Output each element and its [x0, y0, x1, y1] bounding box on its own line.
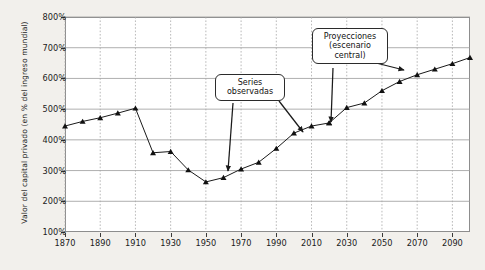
- x-tick: [347, 233, 348, 237]
- x-tick: [276, 233, 277, 237]
- y-tick-label: 600%: [43, 73, 66, 83]
- x-tick: [206, 233, 207, 237]
- x-tick-label: 2050: [372, 238, 393, 248]
- y-tick-label: 200%: [43, 196, 66, 206]
- x-tick-label: 2010: [301, 238, 322, 248]
- x-tick-label: 2090: [442, 238, 463, 248]
- x-tick: [382, 233, 383, 237]
- x-tick-label: 1970: [231, 238, 252, 248]
- grid-layer: [65, 17, 470, 232]
- x-tick: [417, 233, 418, 237]
- x-tick-label: 2070: [407, 238, 428, 248]
- projected-series-callout: Proyecciones (escenario central): [312, 28, 388, 64]
- x-tick-label: 1890: [90, 238, 111, 248]
- x-tick: [135, 233, 136, 237]
- x-tick-label: 1930: [160, 238, 181, 248]
- x-tick-label: 1950: [195, 238, 216, 248]
- y-tick-label: 500%: [43, 104, 66, 114]
- y-tick-label: 800%: [43, 12, 66, 22]
- x-tick-label: 2030: [336, 238, 357, 248]
- y-tick-label: 700%: [43, 43, 66, 53]
- x-tick-label: 1870: [55, 238, 76, 248]
- x-tick: [241, 233, 242, 237]
- x-tick: [100, 233, 101, 237]
- chart-figure: Valor del capital privado (en % del ingr…: [0, 0, 485, 270]
- y-tick-label: 300%: [43, 166, 66, 176]
- chart-canvas: [0, 0, 485, 270]
- x-tick: [65, 233, 66, 237]
- x-tick-label: 1990: [266, 238, 287, 248]
- y-tick-label: 100%: [43, 227, 66, 237]
- y-tick-label: 400%: [43, 135, 66, 145]
- x-tick-label: 1910: [125, 238, 146, 248]
- observed-series-callout: Series observadas: [215, 74, 285, 101]
- x-tick: [312, 233, 313, 237]
- x-tick: [171, 233, 172, 237]
- x-tick: [452, 233, 453, 237]
